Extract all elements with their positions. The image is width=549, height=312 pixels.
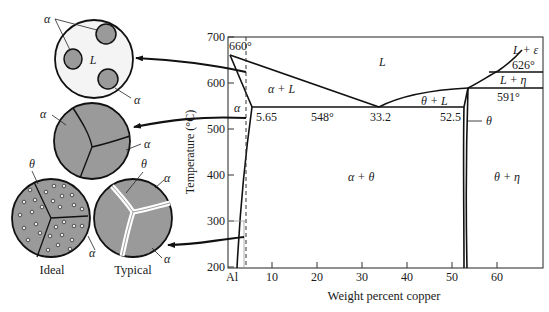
ideal-alpha-label: α [89,246,96,260]
x-axis-label: Weight percent copper [328,289,442,303]
y-tick-300: 300 [207,214,225,228]
leader-line [155,180,164,188]
alpha-particle [64,49,82,69]
plot-annotations: 660° L α + L α 5.65 548° 33.2 52.5 θ + L… [229,39,539,184]
typical-alpha-label-2: α [164,252,171,266]
x-tick-al: Al [226,270,239,284]
typical-alpha-label-1: α [164,171,171,185]
alpha-particle-label-2: α [134,93,141,107]
region-alpha-plus-theta: α + θ [348,170,374,184]
x-tick-50: 50 [446,270,458,284]
region-alpha: α [234,101,241,115]
theta-comp-label: 52.5 [440,110,461,124]
region-liquid-plus-epsilon: L + ε [512,43,539,57]
region-theta: θ [486,114,492,128]
liquidus-alpha [230,55,379,107]
liquid-label: L [89,53,97,67]
peritectic-591-label: 591° [497,90,520,104]
typical-theta-label: θ [141,157,147,171]
region-theta-plus-liquid: θ + L [421,94,448,108]
region-alpha-plus-liquid: α + L [268,82,295,96]
x-tick-labels: Al 10 20 30 40 50 60 [226,270,503,284]
alpha-grain-label-1: α [40,107,47,121]
arrow-to-liquid-alpha [136,58,246,72]
leader-line [115,88,131,98]
ideal-theta-label: θ [29,157,35,171]
solvus-alpha [237,107,252,268]
y-tick-700: 700 [207,30,225,44]
y-tick-600: 600 [207,76,225,90]
eutectic-temp-label: 548° [311,110,334,124]
phase-diagram-figure: 700 600 500 400 300 200 Temperature (°C)… [0,0,549,312]
microstructure-liquid-alpha: L α α [44,12,141,107]
ideal-caption: Ideal [40,263,66,277]
eutectic-comp-label: 33.2 [370,110,391,124]
x-tick-10: 10 [266,270,278,284]
theta-right [466,88,468,268]
arrow-to-typical [168,237,244,245]
alpha-grain-circle [54,103,130,179]
y-axis-label: Temperature (°C) [183,110,197,194]
alpha-particle-label: α [44,12,51,26]
al-melting-label: 660° [229,39,252,53]
x-tick-20: 20 [311,270,323,284]
alpha-solubility-label: 5.65 [256,110,277,124]
x-tick-40: 40 [401,270,413,284]
alpha-particle [98,69,118,89]
alpha-particle [96,24,116,44]
x-tick-60: 60 [491,270,503,284]
typical-caption: Typical [114,263,152,277]
y-tick-400: 400 [207,168,225,182]
y-tick-200: 200 [207,260,225,274]
microstructure-alpha-grains: α α [40,103,151,179]
peritectic-626-label: 626° [512,58,535,72]
y-tick-500: 500 [207,122,225,136]
region-liquid: L [378,55,386,69]
region-liquid-plus-eta: L + η [499,73,527,87]
x-tick-30: 30 [356,270,368,284]
alpha-grain-label-2: α [144,137,151,151]
solidus-alpha [230,55,252,107]
y-axis [228,37,234,267]
region-theta-plus-eta: θ + η [494,170,520,184]
